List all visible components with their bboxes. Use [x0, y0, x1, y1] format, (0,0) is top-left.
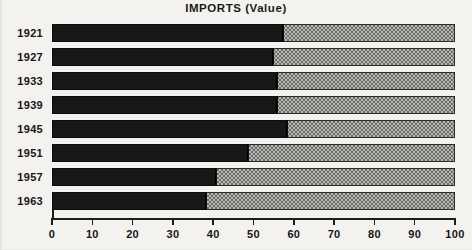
x-axis: 0102030405060708090100	[52, 218, 455, 248]
y-axis-tick-label: 1963	[17, 195, 43, 207]
x-axis-tick-label: 40	[207, 228, 220, 240]
y-axis-tick-label: 1921	[17, 27, 43, 39]
x-axis-tick	[212, 218, 214, 225]
chart-title: IMPORTS (Value)	[0, 2, 472, 14]
bar-dark-segment	[52, 24, 284, 42]
y-axis-tick-label: 1957	[17, 171, 43, 183]
bar-row: 1939	[52, 96, 455, 114]
x-axis-tick-label: 80	[368, 228, 381, 240]
y-axis-tick-label: 1939	[17, 99, 43, 111]
x-axis-tick-label: 70	[328, 228, 341, 240]
chart-root: IMPORTS (Value) 192119271933193919451951…	[0, 0, 472, 250]
bar-dark-segment	[52, 192, 207, 210]
x-axis-tick-label: 30	[166, 228, 179, 240]
x-axis-tick-label: 50	[247, 228, 260, 240]
y-axis-tick-label: 1933	[17, 75, 43, 87]
y-axis-tick-label: 1951	[17, 147, 43, 159]
x-axis-tick-label: 20	[126, 228, 139, 240]
x-axis-tick	[92, 218, 94, 225]
bar-row: 1933	[52, 72, 455, 90]
y-axis-tick-label: 1945	[17, 123, 43, 135]
x-axis-tick	[293, 218, 295, 225]
x-axis-tick-label: 0	[49, 228, 55, 240]
x-axis-tick-label: 60	[287, 228, 300, 240]
bar-row: 1927	[52, 48, 455, 66]
x-axis-tick	[374, 218, 376, 225]
bar-row: 1921	[52, 24, 455, 42]
plot-area: 19211927193319391945195119571963	[52, 24, 455, 216]
x-axis-tick	[454, 218, 456, 225]
bar-row: 1963	[52, 192, 455, 210]
bar-dark-segment	[52, 48, 274, 66]
x-axis-tick-label: 90	[408, 228, 421, 240]
x-axis-tick	[172, 218, 174, 225]
bar-row: 1945	[52, 120, 455, 138]
bar-row: 1951	[52, 144, 455, 162]
x-axis-tick	[414, 218, 416, 225]
bar-dark-segment	[52, 120, 288, 138]
x-axis-tick-label: 100	[445, 228, 464, 240]
bar-dark-segment	[52, 96, 278, 114]
bar-dark-segment	[52, 144, 249, 162]
x-axis-tick	[51, 218, 53, 225]
x-axis-tick	[333, 218, 335, 225]
bar-row: 1957	[52, 168, 455, 186]
x-axis-tick-label: 10	[86, 228, 99, 240]
bar-dark-segment	[52, 168, 217, 186]
bar-dark-segment	[52, 72, 278, 90]
x-axis-tick	[132, 218, 134, 225]
x-axis-tick	[253, 218, 255, 225]
y-axis-tick-label: 1927	[17, 51, 43, 63]
